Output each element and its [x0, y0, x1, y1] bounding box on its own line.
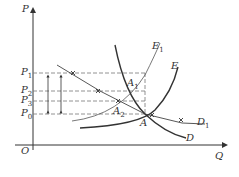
y-axis-label: P: [22, 4, 29, 14]
point-label-a2: A2: [113, 106, 125, 119]
demand-curve-d: [115, 45, 186, 138]
curve-label-e1: E1: [152, 41, 164, 54]
curve-label-d: D: [186, 133, 194, 143]
curve-label-d1: D1: [197, 117, 210, 130]
diagram-canvas: [0, 0, 239, 177]
x-axis-label: Q: [215, 151, 223, 161]
curve-label-e: E: [171, 61, 178, 71]
price-change-arrows: [48, 76, 61, 112]
point-label-a1: A1: [127, 78, 139, 91]
supply-demand-diagram: P Q O P1 P2 P3 P0 E1 E D1 D A1 A2 A: [0, 0, 239, 177]
price-label-p1: P1: [21, 67, 32, 80]
origin-label: O: [21, 146, 29, 156]
price-label-p0: P0: [21, 108, 32, 121]
point-label-a: A: [140, 118, 147, 128]
